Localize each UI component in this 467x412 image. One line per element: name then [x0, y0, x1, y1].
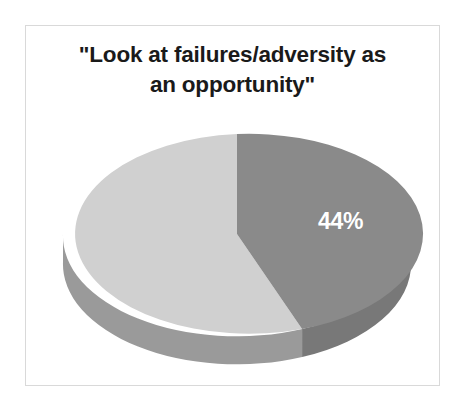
chart-screenshot: "Look at failures/adversity as an opport…	[0, 0, 467, 412]
pie-chart-svg	[26, 26, 441, 387]
pie-slice-value-label-44: 44%	[318, 208, 363, 235]
chart-frame: "Look at failures/adversity as an opport…	[25, 25, 440, 386]
pie-chart-area: 44%	[26, 26, 441, 387]
